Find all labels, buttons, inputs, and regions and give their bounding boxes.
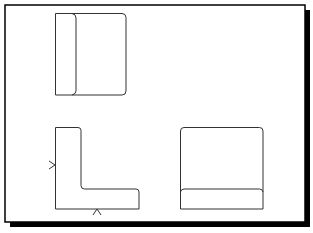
drawing-canvas (0, 0, 313, 233)
